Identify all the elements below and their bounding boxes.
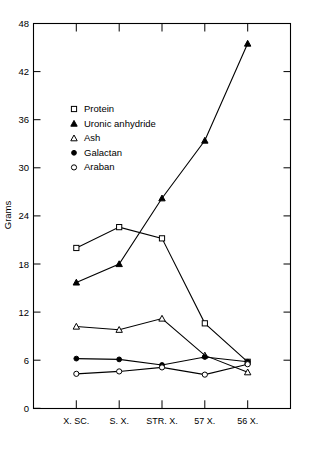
data-point <box>74 371 79 376</box>
y-tick-label: 12 <box>18 307 29 318</box>
y-tick-label: 18 <box>18 259 29 270</box>
chart-container: 48 42 36 30 24 18 12 6 0 Grams <box>0 0 318 456</box>
data-point <box>74 356 79 361</box>
x-tick-label: S. X. <box>109 416 129 426</box>
data-point <box>159 365 164 370</box>
x-tick-label: STR. X. <box>146 416 178 426</box>
y-tick-label: 36 <box>18 114 29 125</box>
x-tick-label: 57 X. <box>194 416 215 426</box>
x-tick-label: 56 X. <box>237 416 258 426</box>
data-point <box>202 355 207 360</box>
legend-marker-open-square <box>71 106 76 111</box>
data-point <box>202 372 207 377</box>
data-point <box>202 321 207 326</box>
legend-label: Ash <box>84 132 100 143</box>
data-point <box>117 225 122 230</box>
y-tick-label: 42 <box>18 66 29 77</box>
legend-label: Uronic anhydride <box>84 118 156 129</box>
data-point <box>117 369 122 374</box>
y-tick-label: 6 <box>24 355 29 366</box>
line-chart: 48 42 36 30 24 18 12 6 0 Grams <box>0 0 318 456</box>
y-tick-label: 24 <box>18 210 29 221</box>
chart-background <box>0 0 318 456</box>
y-tick-label: 0 <box>24 403 29 414</box>
y-tick-label: 30 <box>18 162 29 173</box>
legend-label: Araban <box>84 161 115 172</box>
legend-label: Protein <box>84 103 114 114</box>
legend-label: Galactan <box>84 147 122 158</box>
data-point <box>117 357 122 362</box>
data-point <box>74 245 79 250</box>
data-point <box>245 362 250 367</box>
y-axis-title: Grams <box>2 201 13 230</box>
y-tick-label: 48 <box>18 18 29 29</box>
data-point <box>159 236 164 241</box>
x-tick-label: X. SC. <box>63 416 89 426</box>
legend-marker-open-circle <box>71 165 76 170</box>
legend-marker-filled-circle <box>72 150 77 155</box>
